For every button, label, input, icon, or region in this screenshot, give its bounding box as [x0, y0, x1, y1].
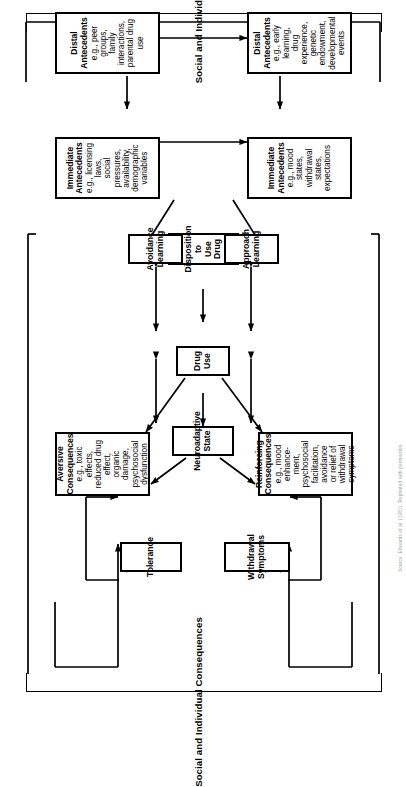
- box-neuroadaptive-state[interactable]: Neuroadaptive State: [172, 426, 234, 456]
- box-immediate-antecedents-social[interactable]: Immediate Antecedents e.g., licensing la…: [55, 137, 160, 199]
- box-reinforcing-consequences-sub-line1: e.g., mood enhance-: [274, 437, 292, 491]
- box-distal-social-sub-line1: e.g., peer groups,: [90, 17, 108, 69]
- box-reinforcing-consequences-sub-line5: symptoms: [347, 445, 356, 482]
- box-distal-individual-sub-line2: drug experience,: [291, 17, 309, 69]
- box-aversive-consequences-title-line2: Consequences: [66, 433, 76, 494]
- box-drug-use[interactable]: Drug Use: [176, 346, 230, 376]
- box-immediate-antecedents-individual[interactable]: Immediate Antecedents e.g., mood states,…: [247, 137, 352, 199]
- box-imm-social-sub-line1: e.g., licensing laws,: [85, 142, 103, 194]
- box-distal-social-title: Distal Antecedents: [70, 17, 89, 69]
- box-neuroadaptive-state-title-line2: State: [203, 430, 213, 451]
- box-imm-individual-title-line2: Antecedents: [277, 142, 287, 194]
- box-distal-social-sub-line3: parental drug use: [126, 17, 144, 69]
- box-imm-social-title-line2: Antecedents: [75, 142, 85, 194]
- box-disposition-title-line2: to Use Drug: [194, 238, 223, 260]
- box-distal-antecedents-social[interactable]: Distal Antecedents e.g., peer groups, fa…: [55, 12, 160, 74]
- box-imm-social-sub-line2: social pressures,: [103, 142, 121, 194]
- box-aversive-consequences-sub-line3: organic damage,: [112, 437, 130, 491]
- box-distal-social-sub-line2: family interactions,: [108, 17, 126, 69]
- box-aversive-consequences-sub-line2: reduced drug effect,: [94, 437, 112, 491]
- box-reinforcing-consequences-sub-line4: or relief of withdrawal: [329, 437, 347, 491]
- box-distal-antecedents-individual[interactable]: Distal Antecedents e.g., early learning,…: [247, 12, 352, 74]
- box-distal-individual-title: Distal Antecedents: [253, 17, 272, 69]
- box-imm-individual-sub-line1: e.g., mood states,: [286, 142, 304, 194]
- box-aversive-consequences-sub-line4: psychosocial: [131, 441, 140, 488]
- box-avoidance-learning-title-line2: Learning: [156, 231, 166, 267]
- section-label-consequences: Social and Individual Consequences: [193, 617, 204, 787]
- box-approach-learning-title-line2: Learning: [252, 231, 262, 267]
- box-imm-individual-sub-line3: expectations: [323, 145, 332, 191]
- box-withdrawal-symptoms[interactable]: Withdrawal Symptoms: [224, 542, 290, 572]
- box-imm-social-sub-line3: availability,: [122, 148, 131, 187]
- box-aversive-consequences-sub-line1: e.g., toxic effects,: [75, 437, 93, 491]
- box-distal-individual-sub-line4: developmental events: [328, 16, 346, 69]
- box-imm-social-sub-line4: demographic variables: [131, 142, 149, 194]
- box-reinforcing-consequences-sub-line3: facilitation, avoidance: [311, 437, 329, 491]
- box-tolerance[interactable]: Tolerance: [120, 542, 182, 572]
- box-distal-individual-sub-line3: genetic endowment,: [309, 17, 327, 69]
- section-label-antecedents: Social and Individual Antecedents: [193, 0, 204, 83]
- box-avoidance-learning[interactable]: Avoidance Learning: [128, 234, 183, 264]
- box-reinforcing-consequences-sub-line2: ment, psychosocial: [292, 437, 310, 491]
- box-imm-individual-sub-line2: withdrawal states,: [305, 142, 323, 194]
- box-approach-learning[interactable]: Approach Learning: [224, 234, 279, 264]
- box-reinforcing-consequences-title-line2: Consequences: [264, 433, 274, 494]
- box-aversive-consequences-sub-line5: dysfunction: [140, 443, 149, 484]
- box-tolerance-title: Tolerance: [146, 537, 156, 577]
- box-withdrawal-symptoms-title-line2: Symptoms: [257, 535, 267, 579]
- box-distal-individual-sub-line1: e.g., early learning,: [272, 17, 290, 69]
- box-reinforcing-consequences[interactable]: Reinforcing Consequences e.g., mood enha…: [258, 432, 353, 496]
- figure-caption: Source: Edwards et al. (1981). Reprinted…: [398, 443, 403, 572]
- box-drug-use-title: Drug Use: [193, 351, 212, 371]
- box-aversive-consequences[interactable]: Aversive Consequences e.g., toxic effect…: [55, 432, 150, 496]
